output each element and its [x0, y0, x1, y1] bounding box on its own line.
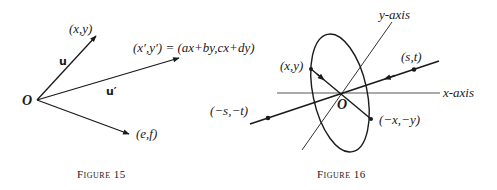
y-axis-line	[302, 22, 392, 150]
endpoint-label-xy: (x,y)	[69, 22, 92, 35]
figure-16	[250, 22, 440, 157]
endpoint-label-u-prime: (x′,y′) = (ax+by,cx+dy)	[133, 41, 255, 54]
caption-figure-15: Figure 15	[77, 168, 126, 180]
point-xy	[309, 67, 313, 71]
line-st-arrow	[387, 76, 395, 79]
vector-label-u: u	[59, 56, 67, 67]
vector-ef	[37, 100, 129, 134]
vector-label-u-prime: u′	[106, 86, 117, 97]
y-axis-label: y-axis	[379, 8, 410, 21]
segment-xy-arrow	[317, 74, 322, 78]
x-axis-label: x-axis	[443, 86, 474, 99]
point-neg-st	[266, 116, 271, 121]
point-label-neg-xy: (−x,−y)	[379, 113, 420, 126]
vector-u	[37, 36, 96, 100]
caption-figure-16: Figure 16	[317, 168, 366, 180]
endpoint-label-ef: (e,f)	[136, 127, 157, 140]
point-label-xy: (x,y)	[280, 59, 303, 72]
point-label-st: (s,t)	[401, 50, 422, 63]
origin-label-fig15: O	[22, 94, 32, 108]
point-label-neg-st: (−s,−t)	[210, 104, 248, 117]
point-neg-xy	[369, 117, 373, 121]
origin-label-fig16: O	[337, 98, 347, 112]
point-st	[412, 67, 417, 72]
